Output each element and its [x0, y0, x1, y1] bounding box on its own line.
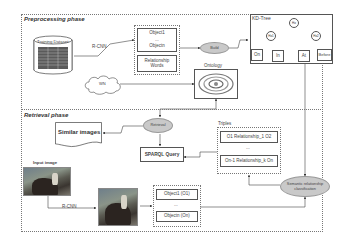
detected-object-ellipsis: ...	[174, 202, 178, 207]
object-last: Objectn	[149, 44, 165, 49]
kdtree-root-node: Ho	[289, 18, 299, 28]
preprocessing-phase-title: Preprocessing phase	[24, 16, 85, 22]
retrieval-ellipse: Retrieval	[143, 118, 173, 133]
object-ellipsis: ...	[155, 38, 159, 43]
kdtree-leaf-on: On	[251, 49, 263, 61]
similar-images-label: Similar images	[58, 129, 100, 135]
triples-title: Triples	[218, 121, 231, 126]
semantic-classification-ellipse: Semantic relationship classification	[280, 176, 330, 197]
rcnn-label-preprocessing: R-CNN	[92, 44, 107, 49]
rcnn-label-retrieval: R-CNN	[62, 204, 77, 209]
kdtree-right-node: Ho2	[311, 31, 321, 41]
training-dataset-label: Training Dataset	[37, 39, 68, 44]
object-first: Object1	[149, 31, 165, 36]
wordnet-cloud: WN	[83, 73, 123, 95]
relationship-words-box: Relationship Words	[137, 55, 177, 72]
sparql-query-box: SPARQL Query	[140, 147, 184, 162]
kdtree-title: KD-Tree	[252, 15, 271, 21]
input-image-label: Input image	[33, 160, 57, 165]
similar-images-document: Similar images	[55, 122, 102, 149]
document-shape-icon	[55, 122, 102, 149]
kdtree-leaf-at: At	[298, 50, 310, 62]
retrieval-phase-title: Retrieval phase	[24, 112, 68, 118]
training-dataset-database: Training Dataset	[33, 35, 73, 75]
detected-object-first: Object1 (O1)	[156, 189, 198, 200]
detected-objects-image	[98, 188, 138, 226]
ontology-box	[194, 69, 238, 99]
kdtree-leaf-in: In	[272, 50, 284, 62]
build-ellipse: Build	[200, 42, 229, 54]
kdtree-left-node: Ho1	[266, 31, 276, 41]
input-image	[23, 167, 71, 196]
triple-last: On-1 Relationship_k On	[220, 155, 278, 167]
objects-list-box: Object1 ... Objectn	[137, 28, 177, 52]
wordnet-label: WN	[99, 81, 106, 86]
ontology-title: Ontology	[204, 63, 222, 68]
kdtree-leaf-before: Before	[317, 49, 332, 61]
triple-first: O1 Relationship_1 O2	[220, 131, 278, 143]
triple-ellipsis: ...	[246, 145, 250, 150]
detected-object-last: Objectn (On)	[156, 211, 198, 222]
ontology-graph-icon	[196, 71, 236, 97]
